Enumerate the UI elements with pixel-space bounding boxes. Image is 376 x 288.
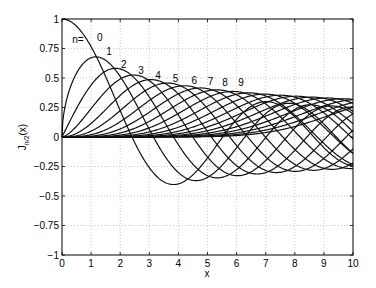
x-tick-label: 8 [292, 258, 298, 269]
curve-label: n= [72, 34, 84, 45]
x-tick-label: 9 [321, 258, 327, 269]
y-tick-label: −0.25 [34, 161, 60, 172]
x-tick-label: 4 [176, 258, 182, 269]
curve-label: 2 [121, 59, 127, 70]
bessel-chart: 012345678910−1−0.75−0.5−0.2500.250.50.75… [0, 0, 376, 288]
x-tick-label: 6 [234, 258, 240, 269]
x-tick-label: 10 [347, 258, 359, 269]
y-tick-label: −0.5 [39, 191, 59, 202]
y-axis-label: Jn/2(x) [17, 124, 30, 150]
x-axis-label: x [205, 268, 210, 279]
curve-label: 6 [192, 75, 198, 86]
x-tick-label: 1 [88, 258, 94, 269]
y-tick-label: 0.75 [40, 43, 60, 54]
x-tick-label: 3 [147, 258, 153, 269]
curve-label: 1 [106, 46, 112, 57]
x-tick-label: 7 [263, 258, 269, 269]
curve-label: 7 [208, 76, 214, 87]
curve-label: 3 [138, 65, 144, 76]
y-tick-label: 1 [53, 14, 59, 25]
y-tick-label: −0.75 [34, 220, 60, 231]
curve-label: 0 [97, 32, 103, 43]
y-tick-label: −1 [48, 250, 60, 261]
y-tick-label: 0.25 [40, 102, 60, 113]
svg-text:Jn/2(x): Jn/2(x) [17, 124, 30, 150]
curve-label: 9 [238, 77, 244, 88]
curve-label: 8 [222, 77, 228, 88]
y-tick-label: 0 [53, 132, 59, 143]
x-tick-label: 0 [59, 258, 65, 269]
curve-label: 4 [155, 70, 161, 81]
curve-label: 5 [173, 73, 179, 84]
x-tick-label: 2 [117, 258, 123, 269]
y-tick-label: 0.5 [45, 73, 59, 84]
